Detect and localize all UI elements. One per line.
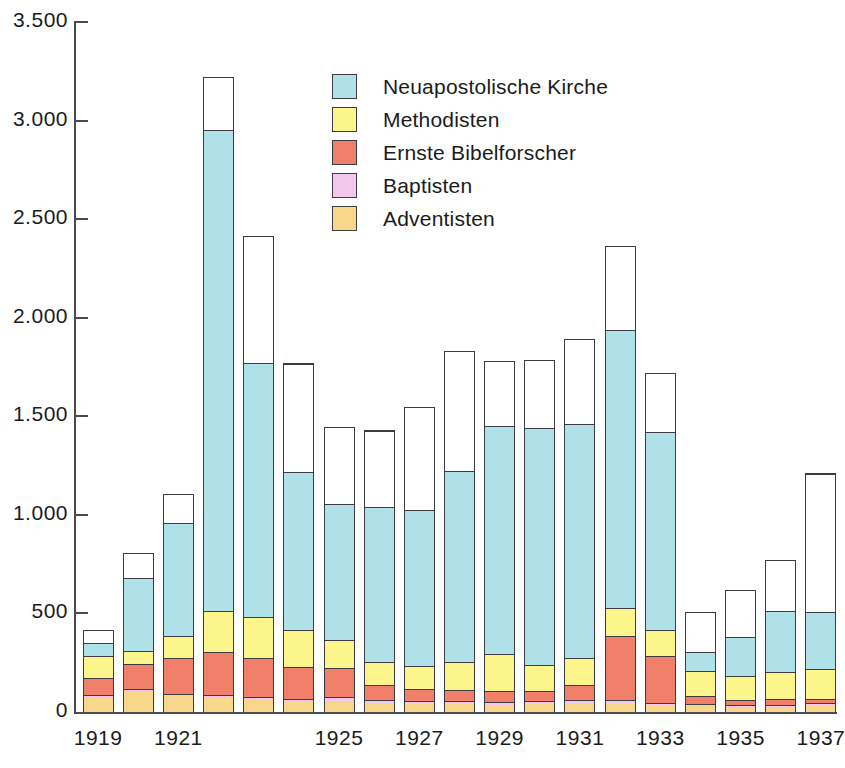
legend-item: Ernste Bibelforscher [332,136,608,169]
y-axis-tick-label: 500 [0,599,68,623]
bar-segment [124,691,153,712]
bar [243,236,274,712]
legend-label: Methodisten [383,108,500,132]
legend-swatch-icon [332,74,357,99]
bar-segment [606,608,635,636]
bar-segment [806,474,835,612]
bar-segment [244,617,273,659]
bar [83,630,114,712]
bar-segment [405,666,434,690]
bar-segment [325,504,354,640]
bar-segment [606,636,635,700]
bar-segment [726,707,755,712]
bar [203,77,234,712]
bar-segment [686,612,715,651]
bar-segment [325,702,354,712]
bar-segment [204,652,233,694]
bar-segment [284,472,313,630]
bar-segment [686,652,715,671]
x-axis-tick-label: 1929 [475,726,524,750]
bar-segment [84,656,113,678]
bar-segment [325,427,354,504]
bar-segment [485,426,514,654]
bar-segment [766,560,795,611]
bar-segment [164,658,193,693]
bar [805,473,836,712]
bar [765,560,796,712]
legend-label: Baptisten [383,174,472,198]
bar-segment [565,339,594,424]
bar [564,339,595,712]
y-axis-tick [74,120,88,122]
y-axis-tick-label: 2.000 [0,304,68,328]
bar-segment [726,637,755,676]
bar-segment [806,669,835,699]
x-axis-tick-label: 1935 [716,726,765,750]
y-axis-tick [74,218,88,220]
bar-segment [485,654,514,691]
bar-segment [204,77,233,130]
legend-item: Baptisten [332,169,608,202]
bar-segment [485,691,514,702]
chart-legend: Neuapostolische KircheMethodistenErnste … [332,70,608,235]
bar [605,246,636,712]
bar-segment [204,611,233,652]
bar-segment [565,658,594,685]
y-axis-tick [74,21,88,23]
bar-segment [525,691,554,702]
bar-segment [204,130,233,611]
legend-item: Methodisten [332,103,608,136]
bar-segment [405,407,434,510]
bar [524,360,555,712]
y-axis-tick-label: 2.500 [0,205,68,229]
y-axis-tick-label: 3.000 [0,107,68,131]
y-axis-tick-label: 3.500 [0,8,68,32]
bar-segment [284,667,313,699]
x-axis-tick-label: 1927 [395,726,444,750]
legend-label: Adventisten [383,207,495,231]
bar [283,363,314,712]
bar-segment [686,706,715,712]
bar-segment [365,685,394,700]
bar-segment [686,696,715,704]
bar-segment [445,662,474,691]
y-axis-tick [74,514,88,516]
bar-segment [405,510,434,666]
x-axis-tick-label: 1925 [315,726,364,750]
legend-swatch-icon [332,140,357,165]
bar-segment [445,471,474,662]
bar-segment [244,700,273,712]
bar-segment [766,611,795,672]
bar-segment [525,428,554,665]
y-axis-tick-label: 1.500 [0,402,68,426]
bar-segment [646,630,675,656]
bar-segment [365,703,394,712]
bar-segment [606,246,635,330]
x-axis-line [74,712,837,714]
bar-segment [84,643,113,656]
x-axis-tick-label: 1921 [154,726,203,750]
bar-segment [244,363,273,617]
bar-segment [405,689,434,700]
bar [324,427,355,712]
bar-segment [244,658,273,697]
legend-swatch-icon [332,206,357,231]
bar-segment [646,373,675,432]
legend-label: Ernste Bibelforscher [383,141,576,165]
bar-segment [646,706,675,712]
bar-segment [164,696,193,712]
bar-segment [525,665,554,691]
y-axis-tick-label: 1.000 [0,501,68,525]
bar-segment [124,578,153,651]
legend-label: Neuapostolische Kirche [383,75,608,99]
bar-segment [244,236,273,363]
x-axis-tick-label: 1919 [74,726,123,750]
bar [725,590,756,712]
bar-segment [726,676,755,700]
bar-segment [606,704,635,712]
bar [404,407,435,712]
bar-segment [445,690,474,701]
y-axis-tick [74,415,88,417]
bar-segment [84,630,113,643]
x-axis-tick-label: 1931 [556,726,605,750]
